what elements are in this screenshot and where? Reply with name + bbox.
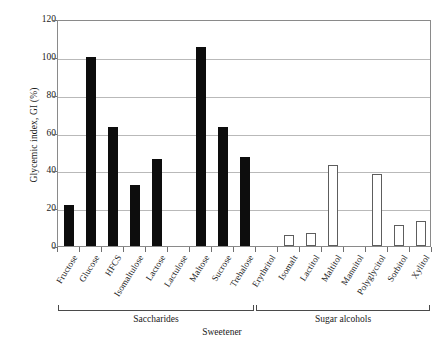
glycemic-index-bar-chart: Glycemic index, GI (%) 020406080100120 F…	[0, 0, 444, 355]
x-axis-tick-mark	[299, 247, 300, 252]
x-axis-tick-mark	[233, 247, 234, 252]
y-axis-tick-label: 0	[14, 242, 56, 252]
bar-maltitol	[328, 165, 338, 246]
x-axis-tick-mark	[211, 247, 212, 252]
x-axis-tick-mark	[321, 247, 322, 252]
group-bracket-label: Saccharides	[58, 314, 254, 324]
x-axis-tick-mark	[79, 247, 80, 252]
gridline	[58, 59, 430, 60]
bar-xylitol	[416, 221, 426, 246]
x-axis-tick-mark	[123, 247, 124, 252]
group-bracket-label: Sugar alcohols	[256, 314, 430, 324]
x-axis-tick-label: Sorbitol	[385, 253, 409, 284]
y-axis-tick-label: 20	[14, 204, 56, 214]
bar-glucose	[86, 57, 96, 246]
y-axis-tick-label: 80	[14, 91, 56, 101]
x-axis-tick-mark	[277, 247, 278, 252]
gridline	[58, 97, 430, 98]
group-bracket	[256, 305, 430, 311]
x-axis-tick-label: HFCS	[102, 253, 123, 278]
bar-polyglycitol	[372, 174, 382, 246]
plot-area	[57, 20, 431, 247]
x-axis-tick-mark	[189, 247, 190, 252]
x-axis-tick-label: Glucose	[77, 253, 101, 284]
bar-sucrose	[218, 127, 228, 246]
x-axis-tick-label: Maltose	[187, 253, 211, 283]
x-axis-tick-mark	[365, 247, 366, 252]
x-axis-tick-label: Lactose	[143, 253, 167, 283]
x-axis-tick-label: Isomalt	[276, 253, 299, 282]
y-axis-tick-label: 60	[14, 129, 56, 139]
x-axis-tick-mark	[167, 247, 168, 252]
bar-sorbitol	[394, 225, 404, 246]
y-axis-tick-label: 100	[14, 53, 56, 63]
x-axis-tick-label: Fructose	[54, 253, 79, 285]
x-axis-tick-mark	[387, 247, 388, 252]
x-axis-tick-mark	[57, 247, 58, 252]
x-axis-tick-label: Lactitol	[297, 253, 321, 283]
x-axis-tick-label: Xylitol	[409, 253, 431, 281]
x-axis-tick-mark	[431, 247, 432, 252]
y-axis-tick-label: 40	[14, 167, 56, 177]
x-axis-tick-mark	[409, 247, 410, 252]
x-axis-tick-mark	[255, 247, 256, 252]
bar-lactose	[152, 159, 162, 246]
y-axis-tick-label: 120	[14, 15, 56, 25]
x-axis-tick-mark	[101, 247, 102, 252]
x-axis-title: Sweetener	[0, 327, 444, 337]
x-axis-tick-mark	[145, 247, 146, 252]
bar-maltose	[196, 47, 206, 246]
bar-isomaltulose	[130, 185, 140, 246]
bar-fructose	[64, 205, 74, 246]
bar-trehalose	[240, 157, 250, 246]
x-axis-tick-mark	[343, 247, 344, 252]
group-bracket	[58, 305, 254, 311]
bar-lactitol	[306, 233, 316, 246]
bar-isomalt	[284, 235, 294, 246]
bar-hfcs	[108, 127, 118, 246]
